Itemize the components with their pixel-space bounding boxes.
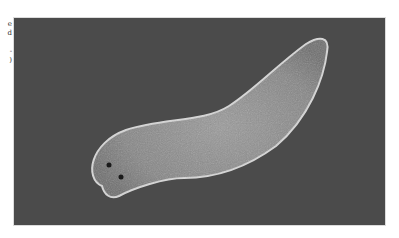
eyespot <box>107 163 112 168</box>
caption-line: - <box>0 47 12 56</box>
caption-fragment: e d - ) <box>0 20 12 65</box>
caption-line: e <box>0 20 12 29</box>
caption-line <box>0 38 12 47</box>
planarian-illustration <box>14 18 386 226</box>
micrograph-photo <box>13 17 386 226</box>
caption-line: ) <box>0 56 12 65</box>
eyespot <box>119 175 124 180</box>
caption-line: d <box>0 29 12 38</box>
